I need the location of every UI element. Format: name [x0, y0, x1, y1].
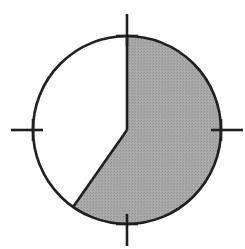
pie-sector-diagram	[0, 0, 245, 249]
figure-root	[0, 0, 245, 249]
